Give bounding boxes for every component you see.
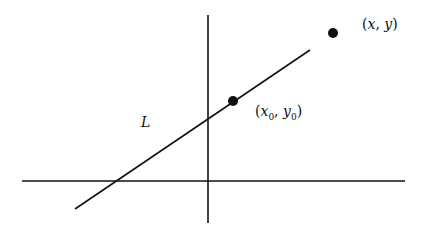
point-x-y-label: (x, y) xyxy=(362,16,398,32)
point-x0-y0 xyxy=(228,96,238,106)
diagram-canvas: L (x, y) (x0, y0) xyxy=(0,0,421,235)
comma: , xyxy=(375,16,384,32)
line-l xyxy=(75,50,310,209)
point-x-y xyxy=(328,28,338,38)
var-y: y xyxy=(384,16,392,32)
comma: , xyxy=(274,103,283,119)
paren-close: ) xyxy=(297,103,302,119)
line-label: L xyxy=(141,114,150,130)
point-x0-y0-label: (x0, y0) xyxy=(255,103,302,122)
var-y: y xyxy=(283,103,291,119)
diagram-graphics xyxy=(0,0,421,235)
paren-close: ) xyxy=(392,16,397,32)
